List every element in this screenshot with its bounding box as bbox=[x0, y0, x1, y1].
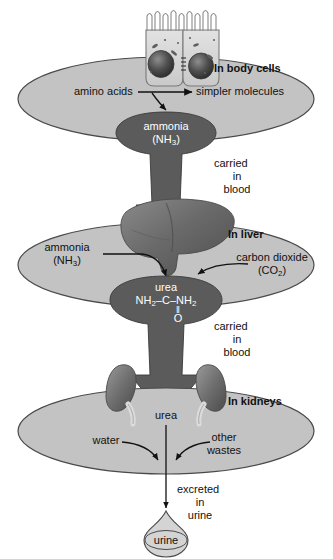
heading-in-body-cells: In body cells bbox=[214, 62, 281, 74]
label-simpler-molecules: simpler molecules bbox=[196, 85, 284, 97]
excretion-line1: excreted bbox=[177, 483, 219, 495]
urea-pathway-svg bbox=[0, 0, 333, 559]
label-kidney-urea: urea bbox=[155, 409, 177, 421]
transport-first-line2: in bbox=[233, 170, 242, 182]
molecule-urea-atom: O bbox=[174, 312, 183, 324]
label-urine-droplet: urine bbox=[154, 534, 178, 546]
molecule-ammonia-name: ammonia bbox=[143, 120, 188, 132]
label-other-wastes-line1: other bbox=[211, 431, 236, 443]
label-liver-ammonia-formula: (NH3) bbox=[53, 254, 81, 269]
heading-in-liver: In liver bbox=[228, 228, 263, 240]
label-amino-acids: amino acids bbox=[74, 85, 133, 97]
label-carbon-dioxide-formula: (CO2) bbox=[258, 264, 286, 279]
label-liver-ammonia: ammonia bbox=[44, 241, 89, 253]
label-water: water bbox=[93, 434, 120, 446]
transport-second-line2: in bbox=[233, 333, 242, 345]
excretion-line2: in bbox=[196, 496, 205, 508]
molecule-urea-formula: NH2–C–NH2 bbox=[136, 294, 197, 309]
molecule-ammonia-formula: (NH3) bbox=[152, 133, 180, 148]
diagram-canvas: In body cells amino acids simpler molecu… bbox=[0, 0, 333, 559]
transport-first-line1: carried bbox=[214, 157, 248, 169]
label-other-wastes-line2: wastes bbox=[207, 444, 241, 456]
transport-second-line1: carried bbox=[214, 320, 248, 332]
heading-in-kidneys: In kidneys bbox=[228, 395, 282, 407]
excretion-line3: urine bbox=[188, 509, 212, 521]
epithelial-cells-illustration bbox=[146, 11, 219, 87]
transport-first-line3: blood bbox=[224, 183, 251, 195]
molecule-urea-name: urea bbox=[155, 281, 177, 293]
transport-second-line3: blood bbox=[224, 346, 251, 358]
label-carbon-dioxide: carbon dioxide bbox=[236, 251, 308, 263]
